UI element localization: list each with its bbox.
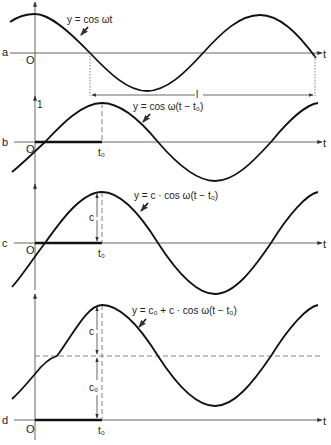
pointer-arrow-icon bbox=[143, 114, 150, 122]
amplitude-label: c bbox=[89, 326, 94, 337]
origin-label: O bbox=[26, 54, 35, 66]
equation-label: y = c · cos ω(t − t₀) bbox=[134, 190, 218, 201]
cosine-curve bbox=[10, 14, 316, 91]
panel-label: d bbox=[2, 414, 8, 426]
amplitude-label: c bbox=[89, 212, 94, 223]
offset-cosine-curve bbox=[12, 305, 318, 406]
panel-label: a bbox=[2, 46, 9, 58]
panel-b: b O 1 t₀ t y = cos ω(t − t₀) bbox=[2, 96, 326, 190]
origin-label: O bbox=[26, 423, 35, 435]
equation-label: y = cos ωt bbox=[67, 14, 113, 25]
y-tick-label: 1 bbox=[37, 99, 43, 110]
t-label: t bbox=[323, 415, 326, 427]
period-label: l bbox=[196, 89, 198, 100]
equation-label: y = cos ω(t − t₀) bbox=[133, 101, 203, 112]
offset-label: c₀ bbox=[89, 382, 98, 393]
t0-label: t₀ bbox=[98, 248, 105, 259]
panel-c: c O c t₀ t y = c · cos ω(t − t₀) bbox=[2, 184, 326, 294]
pointer-arrow-icon bbox=[141, 203, 148, 211]
panel-a: l a O t y = cos ωt bbox=[2, 2, 326, 100]
t0-label: t₀ bbox=[98, 147, 105, 158]
t-label: t bbox=[323, 48, 326, 60]
cosine-shift-diagram: l a O t y = cos ωt b O 1 t₀ t y = cos ω(… bbox=[0, 0, 331, 445]
pointer-arrow-icon bbox=[81, 27, 88, 35]
t0-label: t₀ bbox=[98, 425, 105, 436]
panel-d: d O c c₀ t₀ t y = c₀ + c · cos ω(t − t₀) bbox=[2, 294, 326, 440]
equation-label: y = c₀ + c · cos ω(t − t₀) bbox=[132, 305, 237, 316]
pointer-arrow-icon bbox=[139, 319, 146, 327]
origin-label: O bbox=[26, 244, 35, 256]
t-label: t bbox=[323, 137, 326, 149]
origin-label: O bbox=[26, 143, 35, 155]
panel-label: c bbox=[2, 237, 8, 249]
t-label: t bbox=[323, 238, 326, 250]
panel-label: b bbox=[2, 136, 8, 148]
